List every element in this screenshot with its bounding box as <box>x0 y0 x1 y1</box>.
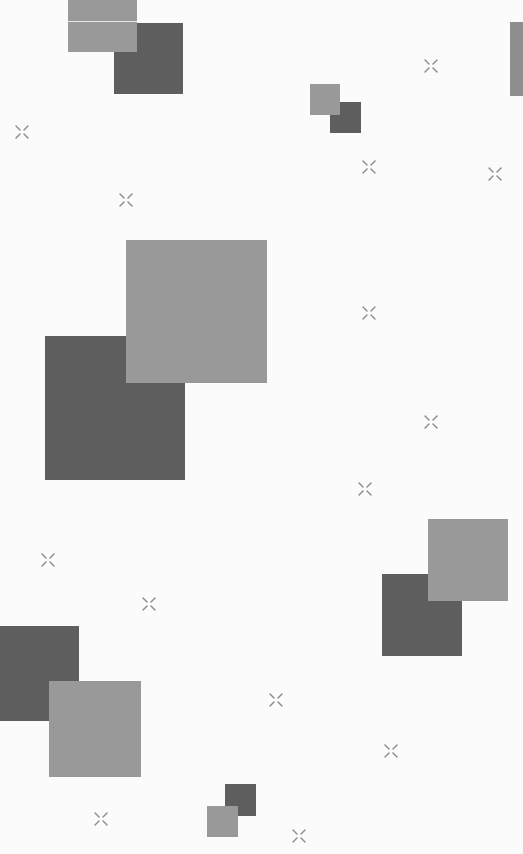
sparkle-icon <box>356 480 374 498</box>
light-square <box>126 240 267 383</box>
sparkle-icon <box>422 57 440 75</box>
sparkle-icon <box>360 304 378 322</box>
sparkle-icon <box>267 691 285 709</box>
sparkle-icon <box>92 810 110 828</box>
light-square <box>428 519 508 601</box>
sparkle-icon <box>13 123 31 141</box>
sparkle-icon <box>140 595 158 613</box>
light-square <box>68 0 137 52</box>
light-square <box>310 84 340 115</box>
sparkle-icon <box>422 413 440 431</box>
sparkle-icon <box>382 742 400 760</box>
divider-line <box>68 21 137 22</box>
sparkle-icon <box>290 827 308 845</box>
light-square <box>49 681 141 777</box>
scrollbar-thumb[interactable] <box>510 22 523 96</box>
sparkle-icon <box>360 158 378 176</box>
decorative-pattern-canvas <box>0 0 523 854</box>
light-square <box>207 806 238 837</box>
sparkle-icon <box>117 191 135 209</box>
sparkle-icon <box>39 551 57 569</box>
sparkle-icon <box>486 165 504 183</box>
